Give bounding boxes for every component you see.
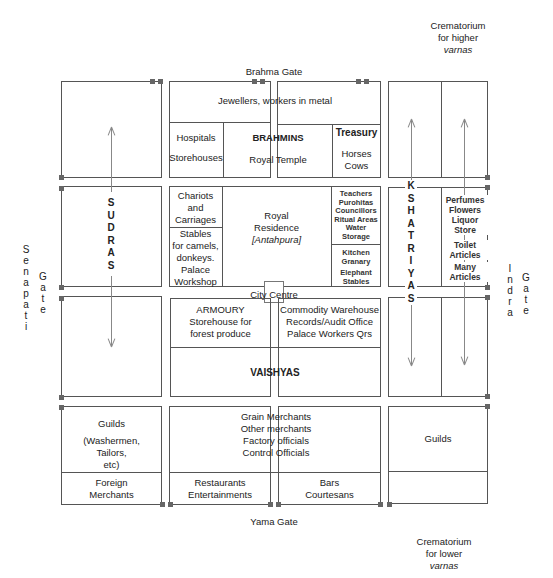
guilds-foreign-divider (61, 472, 162, 473)
kshatriyas-arrow-up (411, 120, 412, 182)
node (485, 394, 490, 399)
indra-gate-word: G a t e (520, 272, 532, 316)
sudras-label: S U D R A S (105, 197, 117, 272)
bars-label: Bars Courtesans (278, 477, 381, 501)
foreign-merchants-label: Foreign Merchants (61, 477, 162, 501)
officials-kitchen-divider (331, 244, 381, 245)
officials-label: Teachers Purohitas Councillors Ritual Ar… (331, 190, 381, 241)
node (485, 185, 490, 190)
kitchen-label: Kitchen Granary (331, 249, 381, 266)
node (160, 502, 165, 507)
restaurants-divider (169, 472, 381, 473)
storehouses-label: Storehouses (168, 152, 224, 164)
node (252, 79, 257, 84)
block-ne-left (388, 81, 442, 178)
cows-label: Cows (332, 160, 381, 172)
yama-gate-label: Yama Gate (234, 516, 314, 528)
many-articles-label: Many Articles (442, 262, 488, 282)
brahma-gate-label: Brahma Gate (234, 66, 314, 78)
royal-temple-label: Royal Temple (224, 154, 332, 166)
sudras-arrow-up (111, 128, 112, 192)
brahmins-label: BRAHMINS (224, 132, 332, 144)
sudras-arrow-down (111, 276, 112, 346)
node (59, 285, 64, 290)
stables-label: Stables for camels, donkeys. Palace Work… (167, 228, 224, 288)
storehouse-forest-label: Storehouse for forest produce (170, 316, 271, 340)
perfumes-label: Perfumes Flowers Liquor Store (442, 195, 488, 235)
crematorium-higher-label: Crematorium for higher varnas (418, 20, 498, 56)
node (268, 502, 273, 507)
node (168, 502, 173, 507)
node (260, 79, 265, 84)
north-divider-right (277, 124, 381, 125)
jewellers-label: Jewellers, workers in metal (169, 95, 381, 107)
node (59, 405, 64, 410)
treasury-label: Treasury (332, 127, 381, 139)
hospitals-label: Hospitals (169, 132, 223, 144)
block-se (388, 406, 488, 504)
sudras-arrowhead-up-icon (108, 127, 116, 137)
node (485, 175, 490, 180)
node (59, 186, 64, 191)
chariots-label: Chariots and Carriages (169, 190, 222, 226)
node (356, 79, 361, 84)
toilet-articles-label: Toilet Articles (442, 240, 488, 260)
market-arrowhead-down-icon (461, 355, 469, 365)
indra-label: I n d r a (504, 263, 516, 318)
node (59, 296, 64, 301)
market-arrowhead-up-icon (461, 119, 469, 129)
guilds-right-label: Guilds (388, 433, 488, 445)
merchants-label: Grain Merchants Other merchants Factory … (224, 411, 328, 459)
kshatriyas-arrowhead-up-icon (408, 119, 416, 129)
elephant-label: Elephant Stables (331, 269, 381, 286)
vaishyas-label: VAISHYAS (220, 367, 330, 379)
node (378, 502, 383, 507)
node (387, 502, 392, 507)
armoury-label: ARMOURY (170, 304, 271, 316)
hospitals-divider (223, 122, 224, 178)
guilds-right-divider (388, 471, 488, 472)
royal-residence-label: Royal Residence [Antahpura] (222, 210, 331, 246)
crematorium-lower-label: Crematorium for lower varnas (404, 536, 484, 572)
node (485, 285, 490, 290)
node (59, 395, 64, 400)
restaurants-label: Restaurants Entertainments (169, 477, 271, 501)
horses-label: Horses (332, 148, 381, 160)
guilds-left-detail: (Washermen, Tailors, etc) (61, 435, 162, 471)
node (276, 502, 281, 507)
node (158, 79, 163, 84)
node (59, 175, 64, 180)
block-se-left (388, 297, 442, 397)
sudras-arrowhead-down-icon (108, 337, 116, 347)
senapati-label: S e n a p a t i (20, 244, 32, 332)
kshatriyas-arrowhead-down-icon (408, 356, 416, 366)
node (485, 404, 490, 409)
node (364, 79, 369, 84)
guilds-left-label: Guilds (61, 418, 162, 430)
vaishyas-divider (170, 347, 381, 348)
node (150, 79, 155, 84)
senapati-gate-word: G a t e (37, 271, 49, 315)
north-divider-left (169, 122, 271, 123)
node (485, 295, 490, 300)
kshatriyas-label: K S H A T R I Y A S (405, 180, 417, 305)
commodity-label: Commodity Warehouse Records/Audit Office… (278, 304, 381, 340)
